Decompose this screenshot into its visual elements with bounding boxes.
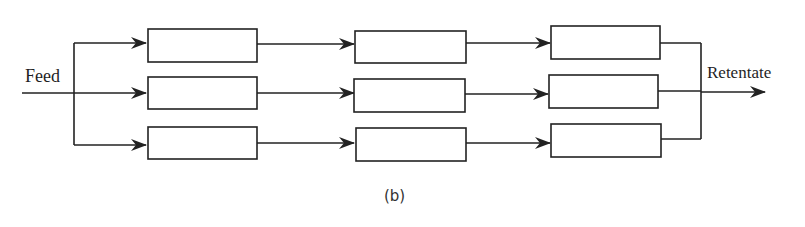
figure-caption: (b) (384, 189, 405, 204)
module-r1-c2 (355, 31, 466, 63)
module-r3-c2 (356, 128, 466, 161)
module-r3-c3 (551, 124, 661, 157)
module-r3-c1 (148, 127, 257, 159)
flow-diagram: Feed Retentate (b) (0, 0, 805, 227)
feed-label: Feed (25, 67, 60, 85)
module-r1-c3 (551, 26, 660, 59)
module-r2-c3 (549, 75, 658, 108)
module-r2-c1 (148, 77, 257, 109)
module-r2-c2 (354, 79, 465, 112)
module-r1-c1 (148, 29, 257, 62)
retentate-label: Retentate (707, 64, 771, 81)
